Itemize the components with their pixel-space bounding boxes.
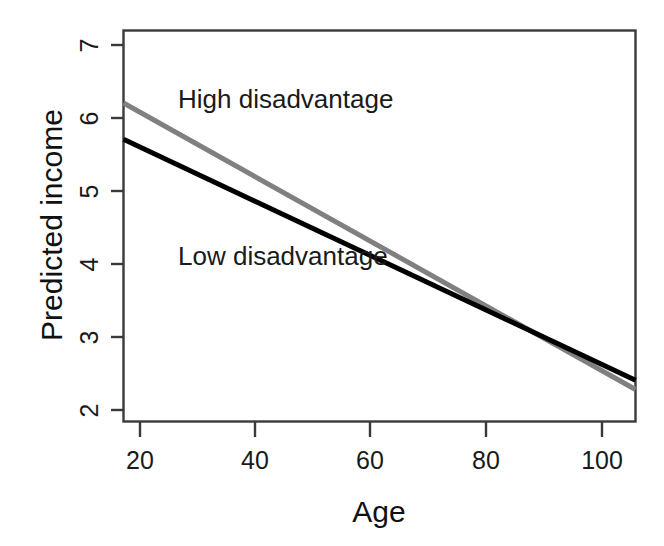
- y-axis-title: Predicted income: [37, 75, 67, 375]
- x-tick-label-100: 100: [581, 448, 623, 473]
- x-axis-ticks: [140, 422, 602, 437]
- series-label-high-disadvantage: High disadvantage: [178, 86, 393, 112]
- y-tick-label-5: 5: [77, 179, 102, 205]
- series-label-low-disadvantage: Low disadvantage: [178, 243, 388, 269]
- y-tick-label-4: 4: [77, 252, 102, 278]
- chart-figure: 7 6 5 4 3 2 20 40 60 80 100 Predicted in…: [0, 0, 664, 546]
- y-tick-label-6: 6: [77, 106, 102, 132]
- y-axis-ticks: [111, 45, 123, 410]
- x-tick-label-60: 60: [356, 448, 384, 473]
- x-tick-label-80: 80: [472, 448, 500, 473]
- y-tick-label-7: 7: [77, 33, 102, 59]
- y-tick-label-3: 3: [77, 325, 102, 351]
- y-tick-label-2: 2: [77, 398, 102, 424]
- x-tick-label-40: 40: [241, 448, 269, 473]
- x-tick-label-20: 20: [126, 448, 154, 473]
- x-axis-title: Age: [352, 497, 405, 527]
